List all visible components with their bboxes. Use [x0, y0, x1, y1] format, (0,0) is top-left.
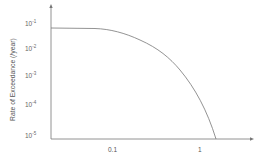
hazard-curve: [51, 28, 216, 139]
x-tick-label: 1: [198, 146, 202, 153]
y-tick-label: 10-1: [25, 19, 36, 27]
y-tick-label: 10-4: [25, 100, 36, 108]
x-axis-arrow-icon: [250, 137, 254, 140]
y-axis-arrow-icon: [49, 4, 52, 8]
y-tick-label: 10-5: [25, 131, 36, 139]
y-axis-label: Rate of Exceedance (/year): [9, 38, 16, 121]
x-tick-label: 0.1: [108, 146, 117, 153]
y-tick-label: 10-2: [25, 44, 36, 52]
y-tick-label: 10-3: [25, 71, 36, 79]
chart-canvas: [0, 0, 258, 166]
